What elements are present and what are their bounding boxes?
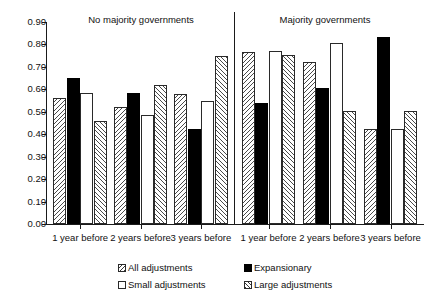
y-tick-label: 0.00: [12, 219, 46, 229]
bar: [269, 51, 282, 224]
bar: [154, 85, 167, 224]
legend-swatch-expansionary: [244, 264, 252, 272]
y-tick-label: 0.40: [12, 129, 46, 139]
bar: [53, 98, 66, 224]
legend-item-small-adjustments: Small adjustments: [118, 279, 206, 290]
x-axis-label: 3 years before: [167, 232, 235, 243]
legend-label-small-adjustments: Small adjustments: [128, 279, 206, 290]
y-tick-label: 0.10: [12, 197, 46, 207]
legend-label-large-adjustments: Large adjustments: [254, 279, 332, 290]
x-tick-mark: [269, 225, 270, 229]
bar: [330, 43, 343, 224]
y-tick-label: 0.70: [12, 62, 46, 72]
y-tick-label: 0.80: [12, 39, 46, 49]
bar: [188, 129, 201, 224]
bar: [127, 93, 140, 224]
x-axis-label: 2 years before: [107, 232, 175, 243]
bar-chart: 0.900.800.700.600.500.400.300.200.100.00…: [0, 0, 434, 307]
bar: [391, 129, 404, 224]
x-axis-line: [46, 224, 424, 225]
x-tick-mark: [141, 225, 142, 229]
bar: [364, 129, 377, 224]
bar: [343, 111, 356, 224]
x-tick-mark: [391, 225, 392, 229]
y-tick-label: 0.60: [12, 84, 46, 94]
bar: [174, 94, 187, 224]
bar: [94, 121, 107, 224]
legend-item-all-adjustments: All adjustments: [118, 262, 192, 273]
bar: [377, 37, 390, 224]
x-axis-label: 3 years before: [357, 232, 425, 243]
y-tick-label: 0.20: [12, 174, 46, 184]
y-axis-labels: 0.900.800.700.600.500.400.300.200.100.00: [0, 0, 46, 307]
legend-swatch-small-adjustments: [118, 281, 126, 289]
x-tick-mark: [330, 225, 331, 229]
legend-item-expansionary: Expansionary: [244, 262, 312, 273]
bar: [303, 62, 316, 224]
bar: [242, 52, 255, 224]
plot-area: [47, 22, 424, 224]
bar: [255, 103, 268, 224]
y-tick-label: 0.90: [12, 17, 46, 27]
bar: [404, 111, 417, 224]
bar: [201, 101, 214, 224]
y-tick-label: 0.30: [12, 152, 46, 162]
x-axis-label: 2 years before: [296, 232, 364, 243]
legend-swatch-all-adjustments: [118, 264, 126, 272]
bar: [316, 88, 329, 224]
bar: [215, 56, 228, 224]
bar: [141, 115, 154, 224]
x-axis-label: 1 year before: [235, 232, 303, 243]
legend-label-all-adjustments: All adjustments: [128, 262, 192, 273]
x-axis-label: 1 year before: [46, 232, 114, 243]
bar: [114, 107, 127, 224]
bar: [282, 55, 295, 224]
bar: [80, 93, 93, 224]
chart-legend: All adjustments Expansionary Small adjus…: [118, 262, 388, 296]
x-tick-mark: [201, 225, 202, 229]
bar: [67, 78, 80, 224]
legend-item-large-adjustments: Large adjustments: [244, 279, 332, 290]
legend-label-expansionary: Expansionary: [254, 262, 312, 273]
legend-swatch-large-adjustments: [244, 281, 252, 289]
y-tick-label: 0.50: [12, 107, 46, 117]
x-tick-mark: [80, 225, 81, 229]
